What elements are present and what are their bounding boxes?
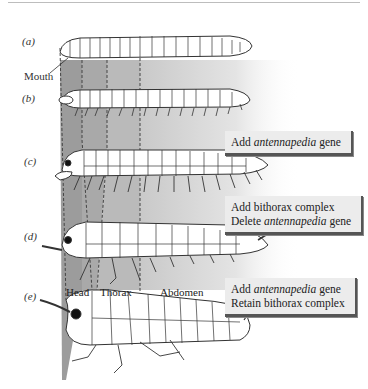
panel-label-d: (d) bbox=[24, 230, 37, 242]
annotation-box-d: Add bithorax complex Delete antennapedia… bbox=[225, 196, 363, 235]
box-e-line1: Add antennapedia gene bbox=[231, 282, 345, 296]
panel-label-e: (e) bbox=[24, 290, 36, 302]
annotation-box-c: Add antennapedia gene bbox=[225, 131, 353, 156]
box-d-line2: Delete antennapedia gene bbox=[231, 214, 351, 228]
segmentation-diagram bbox=[0, 0, 368, 389]
panel-label-b: (b) bbox=[22, 92, 35, 104]
annotation-box-e: Add antennapedia gene Retain bithorax co… bbox=[225, 278, 357, 317]
organism-a bbox=[60, 36, 252, 58]
mouth-label: Mouth bbox=[24, 70, 53, 82]
box-c-line1: Add antennapedia gene bbox=[231, 135, 341, 149]
region-label-head: Head bbox=[66, 286, 89, 298]
box-d-line1: Add bithorax complex bbox=[231, 200, 351, 214]
region-label-thorax: Thorax bbox=[100, 286, 132, 298]
box-e-line2: Retain bithorax complex bbox=[231, 296, 345, 310]
panel-label-a: (a) bbox=[22, 35, 35, 47]
organism-e bbox=[40, 290, 252, 373]
panel-label-c: (c) bbox=[24, 155, 36, 167]
region-label-abdomen: Abdomen bbox=[160, 286, 203, 298]
